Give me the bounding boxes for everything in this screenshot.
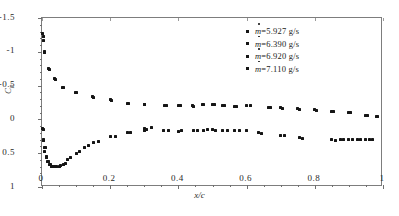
x-axis-minor-tick — [59, 185, 60, 187]
x-axis-tick-label: 0 — [39, 174, 44, 183]
x-axis-tick-label: 0.6 — [239, 174, 252, 183]
x-axis-title: x/c — [0, 190, 399, 200]
data-point — [334, 139, 337, 142]
y-axis-minor-tick — [40, 99, 42, 100]
data-point — [42, 128, 45, 131]
x-axis-minor-tick — [76, 185, 77, 187]
x-axis-tick-label: 0.2 — [103, 174, 116, 183]
data-point — [54, 78, 57, 81]
data-point — [75, 91, 78, 94]
legend-marker-icon — [246, 30, 249, 33]
y-axis-tick-label: -1 — [7, 46, 16, 55]
y-axis-tick — [38, 153, 42, 154]
legend-item-value: =5.927 g/s — [261, 26, 299, 36]
y-axis-tick — [38, 86, 42, 87]
legend-item: m=7.110 g/s — [246, 63, 366, 75]
data-point — [233, 129, 236, 132]
y-axis-tick — [38, 52, 42, 53]
x-axis-minor-tick — [93, 185, 94, 187]
y-axis-tick-label: -1.5 — [0, 13, 15, 22]
data-point — [298, 108, 301, 111]
x-axis-minor-tick — [127, 185, 128, 187]
y-axis-minor-tick — [40, 65, 42, 66]
mass-flow-symbol: m — [255, 51, 261, 61]
x-axis-minor-tick — [230, 185, 231, 187]
legend-item-label: m=6.390 g/s — [255, 39, 299, 49]
data-point — [64, 162, 67, 165]
data-point — [214, 129, 217, 132]
data-point — [43, 150, 46, 153]
data-point — [359, 138, 362, 141]
y-axis-minor-tick — [40, 160, 42, 161]
data-point — [330, 138, 333, 141]
data-point — [109, 135, 112, 138]
y-axis-minor-tick — [40, 59, 42, 60]
x-axis-tick — [110, 185, 111, 189]
x-axis-top-tick — [247, 18, 248, 21]
data-point — [59, 164, 62, 167]
x-axis-top-tick — [383, 18, 384, 21]
y-axis-tick — [38, 119, 42, 120]
mass-flow-symbol: m — [255, 26, 261, 36]
data-point — [221, 129, 224, 132]
data-point — [245, 104, 248, 107]
legend-item-value: =6.920 g/s — [261, 51, 299, 61]
data-point — [92, 96, 95, 99]
x-axis-minor-tick — [349, 185, 350, 187]
data-point — [62, 86, 65, 89]
data-point — [260, 132, 263, 135]
data-point — [202, 103, 205, 106]
data-point — [45, 156, 48, 159]
x-axis-minor-tick — [281, 185, 282, 187]
data-point — [150, 126, 153, 129]
data-point — [192, 129, 195, 132]
data-point — [351, 138, 354, 141]
y-axis-minor-tick — [40, 79, 42, 80]
data-point — [371, 138, 374, 141]
y-axis-minor-tick — [40, 167, 42, 168]
x-axis-minor-tick — [195, 185, 196, 187]
data-point — [213, 103, 216, 106]
data-point — [349, 111, 352, 114]
data-point — [179, 104, 182, 107]
data-point — [114, 135, 117, 138]
x-axis-tick — [247, 185, 248, 189]
x-axis-minor-tick — [144, 185, 145, 187]
data-point — [376, 115, 379, 118]
data-point — [42, 139, 45, 142]
data-point — [249, 104, 252, 107]
data-point — [206, 128, 209, 131]
data-point — [315, 109, 318, 112]
data-point — [223, 104, 226, 107]
data-point — [167, 129, 170, 132]
legend-item-label: m=6.920 g/s — [255, 51, 299, 61]
data-point — [238, 129, 241, 132]
data-point — [332, 110, 335, 113]
y-axis-minor-tick — [40, 25, 42, 26]
legend-item: m=5.927 g/s — [246, 25, 366, 37]
legend-item: m=6.920 g/s — [246, 50, 366, 62]
data-point — [78, 150, 81, 153]
x-axis-tick — [178, 185, 179, 189]
legend: m=5.927 g/sm=6.390 g/sm=6.920 g/sm=7.110… — [246, 25, 366, 75]
legend-marker-icon — [246, 42, 249, 45]
legend-item-label: m=5.927 g/s — [255, 26, 299, 36]
data-point — [226, 129, 229, 132]
data-point — [44, 146, 47, 149]
legend-marker-icon — [246, 67, 249, 70]
data-point — [83, 146, 86, 149]
data-point — [51, 165, 54, 168]
data-point — [235, 105, 238, 108]
mass-flow-symbol: m — [255, 64, 261, 74]
data-point — [279, 134, 282, 137]
x-axis-minor-tick — [213, 185, 214, 187]
data-point — [162, 129, 165, 132]
y-axis-minor-tick — [40, 45, 42, 46]
x-axis-tick-label: 0.8 — [307, 174, 320, 183]
y-axis-minor-tick — [40, 146, 42, 147]
data-point — [366, 114, 369, 117]
x-axis-minor-tick — [332, 185, 333, 187]
data-point — [48, 68, 51, 71]
x-axis-tick — [315, 185, 316, 189]
data-point — [43, 51, 46, 54]
